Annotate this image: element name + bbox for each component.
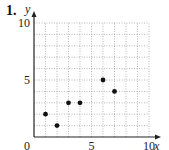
data-point bbox=[43, 112, 48, 117]
grid bbox=[34, 23, 149, 137]
data-point bbox=[112, 89, 117, 94]
data-point bbox=[55, 123, 60, 128]
y-tick-label: 5 bbox=[24, 73, 30, 87]
y-axis-arrow-icon bbox=[32, 11, 37, 17]
scatter-chart: 0510510 x y bbox=[0, 0, 169, 150]
data-point bbox=[66, 100, 71, 105]
x-tick-label: 5 bbox=[89, 139, 95, 150]
axes bbox=[32, 11, 162, 140]
tick-labels: 0510510 bbox=[18, 16, 155, 150]
y-tick-label: 10 bbox=[18, 16, 30, 30]
y-axis-label: y bbox=[24, 2, 31, 16]
x-axis-label: x bbox=[153, 139, 160, 150]
data-point bbox=[78, 100, 83, 105]
x-tick-label: 0 bbox=[24, 139, 30, 150]
data-point bbox=[101, 78, 106, 83]
